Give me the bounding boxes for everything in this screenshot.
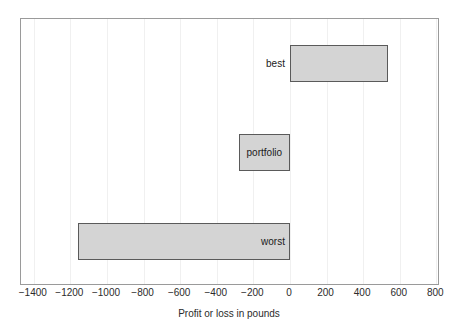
x-axis: −1400−1200−1000−800−600−400−200020040060… <box>0 285 458 336</box>
x-tick-label: −200 <box>241 288 264 298</box>
x-tick-label: 800 <box>427 288 444 298</box>
x-tick-label: −400 <box>205 288 228 298</box>
x-axis-title: Profit or loss in pounds <box>0 309 458 319</box>
gridline <box>70 19 71 284</box>
x-tick-label: 600 <box>390 288 407 298</box>
x-tick-label: −1200 <box>55 288 83 298</box>
bar-label-worst: worst <box>261 237 285 247</box>
plot-area: bestportfolioworst <box>20 18 439 285</box>
gridline <box>400 19 401 284</box>
gridline <box>436 19 437 284</box>
x-tick-label: 0 <box>286 288 292 298</box>
x-tick-label: 400 <box>354 288 371 298</box>
x-tick-label: −1400 <box>19 288 47 298</box>
bar-worst <box>78 223 290 260</box>
bar-label-portfolio: portfolio <box>247 148 283 158</box>
gridline <box>34 19 35 284</box>
bar-chart: bestportfolioworst −1400−1200−1000−800−6… <box>0 0 458 336</box>
x-tick-label: 200 <box>317 288 334 298</box>
x-tick-label: −1000 <box>92 288 120 298</box>
bar-best <box>290 45 388 82</box>
x-tick-label: −800 <box>131 288 154 298</box>
x-tick-label: −600 <box>168 288 191 298</box>
bar-label-best: best <box>266 59 285 69</box>
